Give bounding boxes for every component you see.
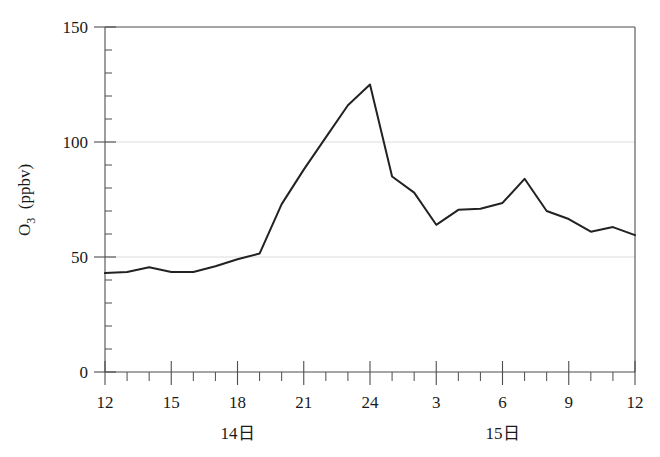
x-tick-label-6: 6 bbox=[498, 393, 507, 412]
x-tick-label-4: 24 bbox=[362, 393, 380, 412]
y-axis-title-unit: (ppbv) bbox=[15, 164, 34, 209]
x-tick-label-5: 3 bbox=[432, 393, 441, 412]
axis-frame bbox=[105, 27, 635, 372]
x-axis-day-labels: 14日15日 bbox=[221, 424, 520, 443]
y-tick-label-0: 0 bbox=[80, 363, 89, 382]
day-label-1: 15日 bbox=[486, 424, 520, 443]
x-axis-ticks bbox=[105, 361, 635, 385]
chart-canvas: 050100150 121518212436912 14日15日 O3 (ppb… bbox=[0, 0, 660, 457]
gridlines-group bbox=[105, 142, 635, 257]
y-tick-label-1: 50 bbox=[71, 248, 88, 267]
x-tick-label-0: 12 bbox=[97, 393, 114, 412]
x-tick-label-7: 9 bbox=[565, 393, 574, 412]
x-tick-label-3: 21 bbox=[295, 393, 312, 412]
y-tick-label-3: 150 bbox=[63, 18, 89, 37]
svg-text:O3 (ppbv): O3 (ppbv) bbox=[15, 164, 38, 236]
day-label-0: 14日 bbox=[221, 424, 255, 443]
y-axis-title-species: O bbox=[15, 224, 34, 236]
y-tick-label-2: 100 bbox=[63, 133, 89, 152]
ozone-timeseries-figure: 050100150 121518212436912 14日15日 O3 (ppb… bbox=[0, 0, 660, 457]
y-axis-tick-labels: 050100150 bbox=[63, 18, 89, 382]
x-tick-label-1: 15 bbox=[163, 393, 180, 412]
ozone-series-line bbox=[105, 85, 635, 274]
y-axis-title: O3 (ppbv) bbox=[15, 164, 38, 236]
x-tick-label-8: 12 bbox=[627, 393, 644, 412]
x-axis-tick-labels: 121518212436912 bbox=[97, 393, 644, 412]
x-tick-label-2: 18 bbox=[229, 393, 246, 412]
